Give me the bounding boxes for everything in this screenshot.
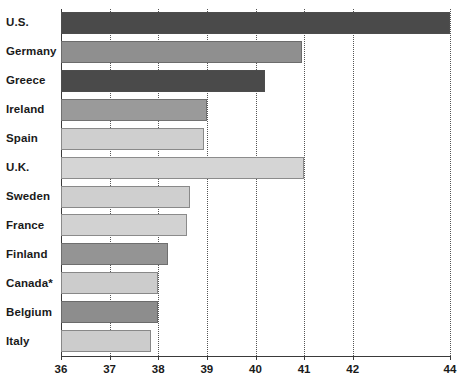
bar-row xyxy=(61,96,450,125)
bar-row xyxy=(61,183,450,212)
bar-belgium[interactable] xyxy=(61,301,158,323)
bar-row xyxy=(61,269,450,298)
category-label: Spain xyxy=(0,133,50,145)
tick-label: 38 xyxy=(152,364,165,376)
category-label: Canada* xyxy=(0,278,50,290)
tick-mark xyxy=(304,356,305,360)
tick-label: 44 xyxy=(444,364,457,376)
bar-row xyxy=(61,67,450,96)
category-label: Ireland xyxy=(0,104,50,116)
tick-mark xyxy=(110,356,111,360)
category-label: Greece xyxy=(0,75,50,87)
bar-finland[interactable] xyxy=(61,243,168,265)
category-label: U.S. xyxy=(0,17,50,29)
plot-area xyxy=(61,9,450,356)
tick-label: 37 xyxy=(103,364,116,376)
gridline xyxy=(450,9,451,356)
tick-mark xyxy=(207,356,208,360)
category-label: U.K. xyxy=(0,162,50,174)
bar-row xyxy=(61,211,450,240)
tick-label: 39 xyxy=(200,364,213,376)
bar-u-k[interactable] xyxy=(61,157,304,179)
bar-germany[interactable] xyxy=(61,41,302,63)
bar-row xyxy=(61,327,450,356)
tick-label: 40 xyxy=(249,364,262,376)
category-label: France xyxy=(0,220,50,232)
tick-label: 36 xyxy=(55,364,68,376)
category-label: Finland xyxy=(0,249,50,261)
category-label: Belgium xyxy=(0,307,50,319)
bar-row xyxy=(61,298,450,327)
tick-mark xyxy=(256,356,257,360)
bar-canada[interactable] xyxy=(61,272,158,294)
bar-italy[interactable] xyxy=(61,330,151,352)
bar-row xyxy=(61,125,450,154)
bar-row xyxy=(61,38,450,67)
bar-france[interactable] xyxy=(61,214,187,236)
tick-label: 42 xyxy=(346,364,359,376)
bar-sweden[interactable] xyxy=(61,186,190,208)
category-label: Italy xyxy=(0,336,50,348)
bar-u-s[interactable] xyxy=(61,12,450,34)
category-label: Sweden xyxy=(0,191,50,203)
bar-ireland[interactable] xyxy=(61,99,207,121)
bar-row xyxy=(61,240,450,269)
tick-mark xyxy=(450,356,451,360)
tick-mark xyxy=(61,356,62,360)
tick-mark xyxy=(353,356,354,360)
bar-greece[interactable] xyxy=(61,70,265,92)
tick-mark xyxy=(158,356,159,360)
bar-spain[interactable] xyxy=(61,128,204,150)
tick-label: 41 xyxy=(298,364,311,376)
category-axis-labels: U.S.GermanyGreeceIrelandSpainU.K.SwedenF… xyxy=(0,9,56,356)
bar-chart: U.S.GermanyGreeceIrelandSpainU.K.SwedenF… xyxy=(0,0,462,389)
category-label: Germany xyxy=(0,46,50,58)
bar-row xyxy=(61,154,450,183)
bar-row xyxy=(61,9,450,38)
